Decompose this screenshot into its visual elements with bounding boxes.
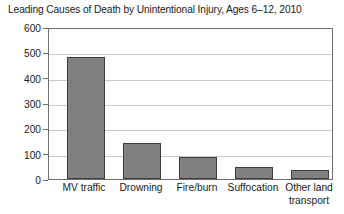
y-axis: 600 500 400 300 200 100 0	[0, 28, 48, 180]
y-tick-label-200: 200	[24, 124, 41, 135]
bar-other-land-transport	[291, 170, 329, 179]
x-label-other-land-transport: Other land transport	[270, 182, 344, 207]
plot-area	[48, 28, 333, 180]
bar-suffocation	[235, 167, 273, 180]
chart-title: Leading Causes of Death by Unintentional…	[8, 4, 302, 15]
x-label-line: transport	[270, 195, 344, 208]
y-tick-label-100: 100	[24, 149, 41, 160]
y-tick-label-400: 400	[24, 73, 41, 84]
bar-mv-traffic	[67, 57, 105, 179]
bar-drowning	[123, 143, 161, 179]
y-tick-label-0: 0	[35, 175, 41, 186]
x-axis-labels: MV traffic Drowning Fire/burn Suffocatio…	[48, 182, 333, 214]
bars-layer	[49, 29, 332, 179]
x-label-line: Other land	[270, 182, 344, 195]
bar-chart: Leading Causes of Death by Unintentional…	[0, 0, 344, 214]
y-tick-label-500: 500	[24, 48, 41, 59]
y-tick-label-600: 600	[24, 23, 41, 34]
bar-fire-burn	[179, 157, 217, 180]
y-tick-label-300: 300	[24, 99, 41, 110]
